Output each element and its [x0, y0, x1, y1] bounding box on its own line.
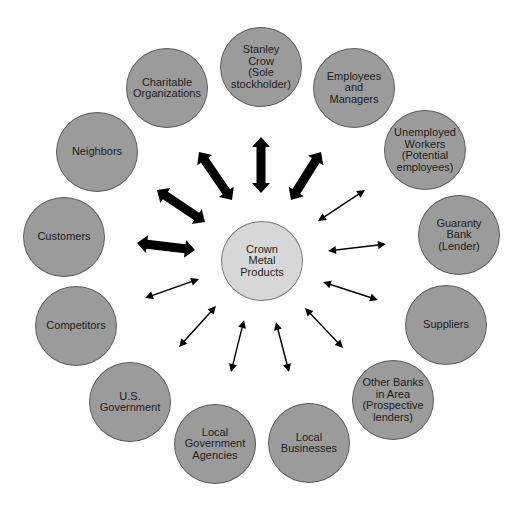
node-label: Employees and Managers	[325, 71, 383, 106]
node-label: Crown Metal Products	[238, 244, 285, 279]
double-arrow-guaranty-bank	[328, 241, 386, 254]
double-arrow-local-government-agencies	[229, 320, 246, 372]
node-neighbors: Neighbors	[56, 112, 138, 192]
node-charitable-organizations: Charitable Organizations	[126, 48, 208, 128]
node-guaranty-bank: Guaranty Bank (Lender)	[418, 195, 500, 275]
double-arrow-other-banks	[305, 308, 343, 348]
node-employees-managers: Employees and Managers	[313, 48, 395, 128]
node-label: U.S. Government	[98, 391, 163, 414]
double-arrow-neighbors	[157, 188, 205, 224]
node-suppliers: Suppliers	[405, 285, 487, 365]
node-label: Competitors	[44, 320, 107, 332]
double-arrow-charitable-organizations	[197, 152, 234, 200]
double-arrow-local-businesses	[274, 322, 291, 372]
node-label: Other Banks in Area (Prospective lenders…	[360, 377, 425, 423]
node-local-businesses: Local Businesses	[268, 403, 350, 483]
double-arrow-us-government	[179, 306, 216, 347]
node-label: Neighbors	[70, 146, 124, 158]
double-arrow-stanley-crow	[252, 137, 270, 193]
double-arrow-unemployed-workers	[318, 190, 365, 221]
node-label: Local Government Agencies	[183, 427, 248, 462]
node-unemployed-workers: Unemployed Workers (Potential employees)	[384, 110, 466, 190]
node-crown-metal-products: Crown Metal Products	[221, 221, 303, 301]
clipped-caption-line	[100, 504, 440, 509]
double-arrow-customers	[137, 235, 195, 257]
node-stanley-crow: Stanley Crow (Sole stockholder)	[220, 27, 302, 107]
node-competitors: Competitors	[35, 286, 117, 366]
node-label: Stanley Crow (Sole stockholder)	[229, 44, 293, 90]
node-customers: Customers	[23, 197, 105, 277]
node-label: Suppliers	[421, 319, 471, 331]
double-arrow-employees-managers	[289, 152, 324, 200]
node-label: Local Businesses	[279, 432, 339, 455]
node-local-government-agencies: Local Government Agencies	[174, 404, 256, 484]
node-us-government: U.S. Government	[89, 362, 171, 442]
node-label: Customers	[35, 231, 92, 243]
node-label: Guaranty Bank (Lender)	[434, 218, 483, 253]
node-other-banks: Other Banks in Area (Prospective lenders…	[352, 360, 434, 440]
node-label: Charitable Organizations	[131, 77, 203, 100]
double-arrow-suppliers	[323, 281, 378, 302]
node-label: Unemployed Workers (Potential employees)	[392, 127, 458, 173]
stakeholder-diagram: Crown Metal Products Stanley Crow (Sole …	[0, 0, 524, 509]
double-arrow-competitors	[145, 278, 199, 299]
